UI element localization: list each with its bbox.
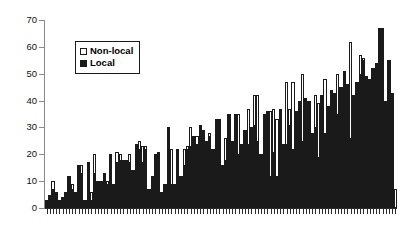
x-axis-tick <box>299 209 300 214</box>
x-axis-tick <box>139 209 140 214</box>
x-axis-tick <box>194 209 195 214</box>
legend-label-nonlocal: Non-local <box>90 46 133 56</box>
x-axis-tick <box>242 209 243 214</box>
x-axis-tick <box>207 209 208 214</box>
x-axis-tick <box>50 209 51 214</box>
bar-chart: 010203040506070 Non-local Local <box>0 0 413 232</box>
x-axis-tick <box>235 209 236 214</box>
y-axis-label: 20 <box>3 149 37 159</box>
legend-label-local: Local <box>90 58 115 68</box>
x-axis-tick <box>178 209 179 214</box>
y-axis-label: 40 <box>3 96 37 106</box>
x-axis-tick <box>165 209 166 214</box>
x-axis-tick <box>203 209 204 214</box>
x-axis-tick <box>56 209 57 214</box>
x-axis-tick <box>210 209 211 214</box>
x-axis-tick <box>325 209 326 214</box>
x-axis-tick <box>111 209 112 214</box>
x-axis-tick <box>239 209 240 214</box>
x-axis-tick <box>383 209 384 214</box>
x-axis-tick <box>184 209 185 214</box>
x-axis-tick <box>66 209 67 214</box>
x-axis-tick <box>296 209 297 214</box>
x-axis-tick <box>69 209 70 214</box>
x-axis-tick <box>91 209 92 214</box>
x-axis-tick <box>245 209 246 214</box>
x-axis-tick <box>114 209 115 214</box>
legend-item-nonlocal: Non-local <box>80 45 133 57</box>
x-axis-tick <box>395 209 396 214</box>
legend-swatch-local-icon <box>80 60 87 67</box>
x-axis-tick <box>187 209 188 214</box>
x-axis-tick <box>75 209 76 214</box>
x-axis-tick <box>72 209 73 214</box>
x-axis-tick <box>389 209 390 214</box>
y-axis-tick <box>39 208 45 209</box>
y-axis-label: 60 <box>3 42 37 52</box>
x-axis-tick <box>271 209 272 214</box>
x-axis-tick <box>351 209 352 214</box>
x-axis-tick <box>47 209 48 214</box>
x-axis-tick <box>133 209 134 214</box>
x-axis-tick <box>59 209 60 214</box>
x-axis-tick <box>379 209 380 214</box>
x-axis-tick <box>79 209 80 214</box>
x-axis-tick <box>367 209 368 214</box>
chart-legend: Non-local Local <box>75 41 140 74</box>
x-axis-tick <box>312 209 313 214</box>
x-axis-tick <box>226 209 227 214</box>
x-axis-tick <box>53 209 54 214</box>
x-axis-tick <box>162 209 163 214</box>
x-axis-tick <box>159 209 160 214</box>
x-axis-tick <box>107 209 108 214</box>
x-axis-tick <box>98 209 99 214</box>
x-axis-tick <box>155 209 156 214</box>
x-axis-tick <box>143 209 144 214</box>
x-axis-tick <box>283 209 284 214</box>
x-axis-tick <box>303 209 304 214</box>
x-axis-tick <box>277 209 278 214</box>
x-axis-tick <box>200 209 201 214</box>
x-axis-tick <box>309 209 310 214</box>
x-axis-tick <box>392 209 393 214</box>
x-axis-tick <box>175 209 176 214</box>
x-axis-tick <box>88 209 89 214</box>
x-axis-tick <box>306 209 307 214</box>
x-axis-tick <box>255 209 256 214</box>
x-axis-tick <box>229 209 230 214</box>
x-axis-tick <box>85 209 86 214</box>
legend-swatch-nonlocal-icon <box>80 48 87 55</box>
x-axis-tick <box>347 209 348 214</box>
x-axis-tick <box>331 209 332 214</box>
x-axis-tick <box>104 209 105 214</box>
x-axis-tick <box>117 209 118 214</box>
x-axis-tick <box>338 209 339 214</box>
x-axis-tick <box>293 209 294 214</box>
x-axis-tick <box>274 209 275 214</box>
x-axis-tick <box>328 209 329 214</box>
x-axis-tick <box>363 209 364 214</box>
x-axis-tick <box>264 209 265 214</box>
x-axis-tick <box>335 209 336 214</box>
x-axis-tick <box>386 209 387 214</box>
x-axis-tick <box>360 209 361 214</box>
x-axis-tick <box>223 209 224 214</box>
x-axis-tick <box>376 209 377 214</box>
x-axis-tick <box>319 209 320 214</box>
x-axis-tick <box>258 209 259 214</box>
bar-group <box>394 20 397 208</box>
x-axis-tick <box>181 209 182 214</box>
x-axis-tick <box>344 209 345 214</box>
x-axis-tick <box>127 209 128 214</box>
x-axis-tick <box>152 209 153 214</box>
x-axis-tick <box>149 209 150 214</box>
bar-nonlocal <box>394 189 397 208</box>
x-axis-tick <box>287 209 288 214</box>
x-axis-tick <box>120 209 121 214</box>
x-axis-tick <box>213 209 214 214</box>
x-axis-tick <box>280 209 281 214</box>
x-axis-tick <box>354 209 355 214</box>
x-axis-tick <box>63 209 64 214</box>
x-axis-tick <box>248 209 249 214</box>
x-axis-tick <box>146 209 147 214</box>
